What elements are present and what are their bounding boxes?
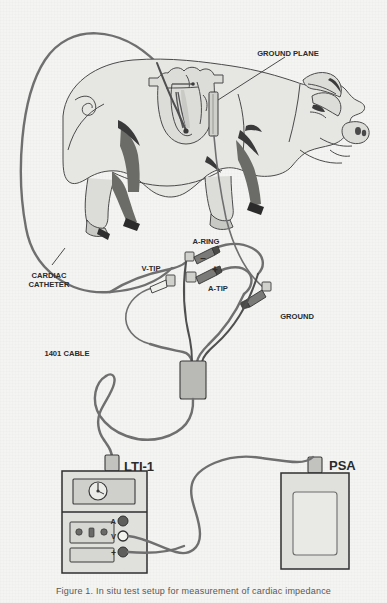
label-a-tip: A-TIP <box>208 284 228 293</box>
label-ground-plane: GROUND PLANE <box>257 49 319 58</box>
v-tip-connector <box>150 275 175 293</box>
lti-1-top-connector[interactable] <box>105 455 119 471</box>
label-1401-cable: 1401 CABLE <box>44 349 89 358</box>
keypad-button-1[interactable] <box>76 529 82 535</box>
junction-box <box>180 361 206 399</box>
label-a-tip-polarity: + <box>212 264 218 275</box>
figure-page: .ln { fill:none; stroke:#4a4a4a; stroke-… <box>0 0 387 603</box>
label-v-tip: V-TIP <box>142 264 161 273</box>
keypad-button-2[interactable] <box>89 528 94 537</box>
ground-plane-patch <box>209 92 218 136</box>
keypad-button-3[interactable] <box>101 529 107 535</box>
label-psa: PSA <box>329 458 356 473</box>
figure-caption: Figure 1. In situ test setup for measure… <box>0 586 387 596</box>
label-v-terminal: V <box>111 532 116 541</box>
psa-display <box>293 492 337 555</box>
plus-terminal[interactable] <box>118 547 128 557</box>
label-cardiac-catheter-line2: CATHETER <box>29 280 70 289</box>
label-a-terminal: A <box>111 517 117 526</box>
v-terminal[interactable] <box>118 531 128 541</box>
diagram-canvas: .ln { fill:none; stroke:#4a4a4a; stroke-… <box>0 0 387 603</box>
lti-1-lower-plate <box>70 548 114 562</box>
cable-1401 <box>95 374 193 458</box>
label-lti-1: LTI-1 <box>124 459 154 474</box>
label-a-ring-polarity: – <box>200 253 206 264</box>
pig-illustration <box>63 59 369 240</box>
label-a-ring: A-RING <box>193 237 220 246</box>
label-plus-terminal: + <box>111 548 116 558</box>
label-ground: GROUND <box>280 312 314 321</box>
a-terminal[interactable] <box>118 516 128 526</box>
cardiac-catheter-leader <box>52 248 65 265</box>
label-cardiac-catheter-line1: CARDIAC <box>31 271 67 280</box>
psa-device[interactable] <box>281 457 349 569</box>
